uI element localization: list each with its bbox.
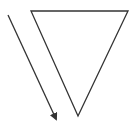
inverted-triangle	[31, 11, 128, 116]
diagram-canvas	[0, 0, 137, 129]
